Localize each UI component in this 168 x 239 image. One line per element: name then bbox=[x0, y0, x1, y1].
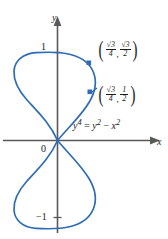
point-lower-y-numerator: 1 bbox=[121, 86, 127, 94]
y-tick-label-negative-1: −1 bbox=[36, 212, 47, 222]
point-lower-x-denominator: 4 bbox=[106, 94, 116, 103]
y-axis bbox=[54, 16, 62, 233]
y-tick-label-1: 1 bbox=[41, 42, 46, 52]
point-upper-x-numerator: √3 bbox=[106, 41, 116, 49]
open-paren-icon: ( bbox=[99, 85, 104, 105]
x-axis-label: x bbox=[157, 137, 161, 147]
equation-rhs-second-exponent: 2 bbox=[116, 118, 120, 127]
open-paren-icon: ( bbox=[99, 40, 104, 60]
figure-container: y x 1 −1 0 y4 = y2 − x2 ( √3 4 , √3 2 ) … bbox=[0, 0, 168, 239]
equation-label: y4 = y2 − x2 bbox=[73, 119, 120, 131]
point-upper-y-fraction: √3 2 bbox=[120, 41, 131, 58]
equation-equals-sign: = bbox=[82, 120, 93, 131]
close-paren-icon: ) bbox=[130, 85, 135, 105]
equation-minus-sign: − bbox=[101, 120, 112, 131]
y-axis-label: y bbox=[52, 13, 56, 23]
close-paren-icon: ) bbox=[133, 40, 138, 60]
origin-label: 0 bbox=[41, 144, 46, 154]
point-upper-y-denominator: 2 bbox=[120, 49, 130, 58]
x-axis bbox=[3, 137, 160, 145]
point-lower-x-numerator: √3 bbox=[106, 86, 116, 94]
point-marker-lower bbox=[88, 90, 93, 95]
point-upper-y-numerator: √3 bbox=[120, 41, 130, 49]
point-lower-y-denominator: 2 bbox=[120, 94, 128, 103]
point-annotation-upper: ( √3 4 , √3 2 ) bbox=[97, 40, 139, 60]
point-lower-x-fraction: √3 4 bbox=[105, 86, 116, 103]
point-upper-x-denominator: 4 bbox=[106, 49, 116, 58]
point-annotation-lower: ( √3 4 , 1 2 ) bbox=[97, 85, 137, 105]
point-marker-upper bbox=[87, 61, 92, 66]
point-lower-y-fraction: 1 2 bbox=[120, 86, 129, 103]
point-upper-x-fraction: √3 4 bbox=[105, 41, 116, 58]
